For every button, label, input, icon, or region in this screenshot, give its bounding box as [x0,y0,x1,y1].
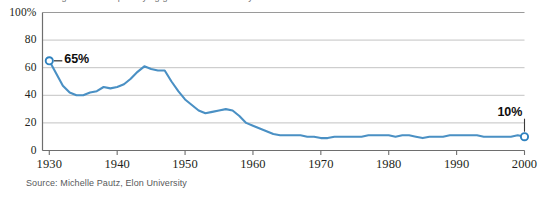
series-line-favorable-portrayal [49,61,524,138]
x-axis-label-2000: 2000 [499,157,551,172]
end-value-annotation: 10% [498,105,523,119]
start-point-marker [46,57,53,64]
gridlines-group [43,13,525,151]
axes-group [43,13,525,151]
y-axis-label-100: 100% [0,6,37,18]
y-axis-label-80: 80 [0,33,37,45]
x-tick-marks-group [49,151,524,156]
y-axis-label-60: 60 [0,61,37,73]
x-axis-label-1940: 1940 [91,157,143,172]
x-axis-label-1930: 1930 [23,157,75,172]
x-axis-label-1950: 1950 [159,157,211,172]
annotation-connectors-group [54,61,525,132]
end-point-marker [521,133,528,140]
x-axis-label-1980: 1980 [363,157,415,172]
y-axis-label-40: 40 [0,88,37,100]
x-axis-label-1960: 1960 [227,157,279,172]
y-axis-label-20: 20 [0,116,37,128]
start-value-annotation: 65% [64,52,89,66]
source-note: Source: Michelle Pautz, Elon University [26,178,187,188]
x-axis-label-1990: 1990 [431,157,483,172]
y-axis-label-0: 0 [0,144,37,156]
endpoint-markers-group [46,57,528,140]
x-axis-label-1970: 1970 [295,157,347,172]
chart-figure: Percentage of movies portraying governme… [0,0,552,199]
data-line-group [49,61,524,138]
